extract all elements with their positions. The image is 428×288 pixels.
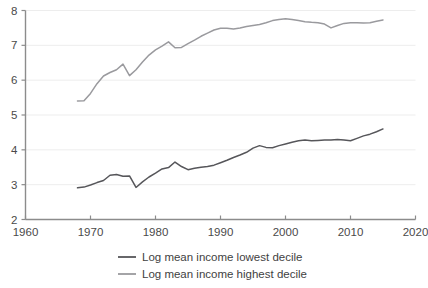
line-chart: 1960197019801990200020102020 2345678 Log… bbox=[0, 0, 428, 288]
y-tick-label-5: 5 bbox=[11, 109, 17, 121]
chart-container: 1960197019801990200020102020 2345678 Log… bbox=[0, 0, 428, 288]
x-tick-label-2020: 2020 bbox=[403, 226, 428, 238]
y-tick-label-6: 6 bbox=[11, 74, 17, 86]
legend-label-lowest-decile: Log mean income lowest decile bbox=[142, 251, 302, 263]
chart-legend: Log mean income lowest decileLog mean in… bbox=[118, 251, 307, 280]
series-line-lowest-decile bbox=[78, 129, 384, 188]
y-tick-label-8: 8 bbox=[11, 5, 17, 17]
series-line-highest-decile bbox=[78, 19, 384, 101]
x-tick-label-1960: 1960 bbox=[13, 226, 39, 238]
y-tick-label-3: 3 bbox=[11, 179, 17, 191]
legend-label-highest-decile: Log mean income highest decile bbox=[142, 268, 307, 280]
x-tick-label-2000: 2000 bbox=[273, 226, 299, 238]
y-tick-label-4: 4 bbox=[11, 144, 18, 156]
x-tick-label-1980: 1980 bbox=[143, 226, 169, 238]
y-tick-label-7: 7 bbox=[11, 39, 17, 51]
data-series-group bbox=[78, 19, 384, 188]
grid-lines bbox=[26, 11, 416, 185]
y-axis-tick-labels: 2345678 bbox=[11, 5, 18, 226]
x-tick-label-1970: 1970 bbox=[78, 226, 104, 238]
x-axis-tick-labels: 1960197019801990200020102020 bbox=[13, 226, 428, 238]
x-tick-label-2010: 2010 bbox=[338, 226, 364, 238]
y-tick-label-2: 2 bbox=[11, 214, 17, 226]
x-tick-label-1990: 1990 bbox=[208, 226, 234, 238]
